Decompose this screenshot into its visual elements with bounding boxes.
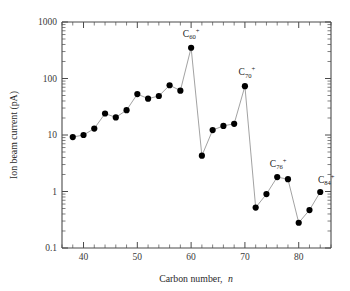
y-tick-label: 100 — [43, 74, 58, 84]
annotation-subscript: 76 — [276, 163, 283, 170]
x-tick-label: 70 — [240, 252, 250, 262]
data-point — [134, 91, 140, 97]
x-axis-title-variable: n — [228, 273, 233, 284]
data-point — [317, 189, 323, 195]
x-tick-label: 60 — [186, 252, 196, 262]
data-point — [70, 134, 76, 140]
y-axis-title: Ion beam current (pA) — [8, 91, 20, 179]
y-tick-label: 1000 — [38, 17, 57, 27]
data-point — [306, 207, 312, 213]
annotation-subscript: 70 — [245, 72, 252, 79]
x-axis-title-plain: Carbon number, — [159, 273, 222, 284]
x-tick-label: 50 — [133, 252, 143, 262]
x-tick-label: 80 — [294, 252, 304, 262]
data-point — [177, 88, 183, 94]
data-point — [274, 174, 280, 180]
data-point — [80, 132, 86, 138]
data-point — [263, 191, 269, 197]
data-point — [188, 45, 194, 51]
data-point — [242, 83, 248, 89]
data-point — [167, 82, 173, 88]
ion-beam-current-chart: 0.11101001000 4050607080 C60+C70+C76+C84… — [0, 0, 350, 291]
annotation-charge: + — [283, 157, 287, 164]
data-point — [123, 107, 129, 113]
y-tick-label: 0.1 — [45, 243, 57, 253]
data-point — [285, 176, 291, 182]
data-point — [113, 114, 119, 120]
data-point — [210, 127, 216, 133]
data-point — [91, 125, 97, 131]
data-point — [199, 153, 205, 159]
data-point — [231, 121, 237, 127]
annotation-subscript: 60 — [189, 33, 196, 40]
data-point — [220, 123, 226, 129]
y-tick-label: 1 — [52, 187, 57, 197]
annotation-charge: + — [252, 65, 256, 72]
data-point — [156, 93, 162, 99]
annotation-charge: + — [331, 173, 335, 180]
x-axis-title: Carbon number, n — [159, 273, 233, 284]
annotation-subscript: 84 — [324, 179, 331, 186]
data-point — [296, 220, 302, 226]
chart-canvas: 0.11101001000 4050607080 C60+C70+C76+C84… — [0, 0, 350, 291]
data-point — [145, 96, 151, 102]
data-point — [102, 110, 108, 116]
data-point — [253, 204, 259, 210]
y-tick-label: 10 — [48, 130, 58, 140]
annotation-charge: + — [196, 27, 200, 34]
x-tick-label: 40 — [79, 252, 89, 262]
